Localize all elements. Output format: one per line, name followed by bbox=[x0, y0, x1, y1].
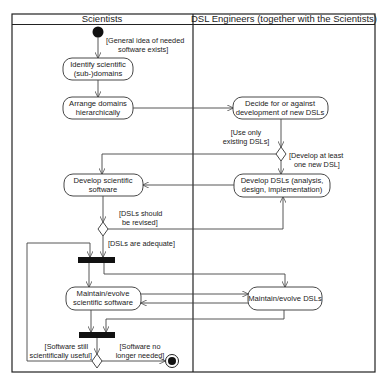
edge-use-existing bbox=[102, 154, 276, 174]
edge-maintain-dsls-join bbox=[106, 310, 284, 332]
action-identify-subdomains: Identify scientific(sub-)domains bbox=[63, 58, 133, 80]
guard-still-useful: [Software stillscientifically useful] bbox=[30, 342, 92, 360]
svg-text:Maintain/evolvescientific soft: Maintain/evolvescientific software bbox=[73, 289, 133, 307]
decision-dsl-diamond bbox=[276, 147, 286, 161]
action-maintain-dsls: Maintain/evolve DSLs bbox=[248, 287, 322, 310]
action-maintain-scientific-software: Maintain/evolvescientific software bbox=[66, 287, 141, 310]
final-node bbox=[166, 355, 179, 368]
lane-title-dsl-engineers: DSL Engineers (together with the Scienti… bbox=[191, 13, 377, 24]
guard-adequate: [DSLs are adequate] bbox=[108, 239, 175, 248]
guard-use-existing: [Use onlyexisting DSLs] bbox=[223, 128, 270, 146]
svg-text:Develop DSLs (analysis,design,: Develop DSLs (analysis,design, implement… bbox=[241, 176, 324, 194]
action-decide-dsl-development: Decide for or againstdevelopment of new … bbox=[233, 97, 328, 119]
guard-revise: [DSLs shouldbe revised] bbox=[119, 209, 162, 227]
activity-diagram: Scientists DSL Engineers (together with … bbox=[0, 0, 380, 385]
action-arrange-domains: Arrange domainshierarchically bbox=[63, 97, 133, 119]
svg-text:Decide for or againstdevelopme: Decide for or againstdevelopment of new … bbox=[236, 99, 325, 117]
action-develop-scientific-software: Develop scientificsoftware bbox=[64, 174, 143, 196]
action-develop-dsls: Develop DSLs (analysis,design, implement… bbox=[234, 174, 330, 197]
svg-text:Identify scientific(sub-)domai: Identify scientific(sub-)domains bbox=[70, 60, 126, 78]
svg-text:Maintain/evolve DSLs: Maintain/evolve DSLs bbox=[248, 294, 322, 303]
guard-general-idea: [General idea of neededsoftware exists] bbox=[106, 36, 184, 54]
initial-node bbox=[93, 27, 104, 38]
guard-no-longer-needed: [Software nolonger needed] bbox=[116, 342, 165, 360]
join-bar bbox=[79, 332, 115, 338]
guard-develop-new: [Develop at leastone new DSL] bbox=[289, 151, 343, 169]
edge-fork-maintain-dsls bbox=[104, 263, 285, 287]
decision-end-diamond bbox=[92, 354, 102, 368]
fork-bar bbox=[78, 257, 115, 263]
lane-title-scientists: Scientists bbox=[82, 13, 123, 24]
svg-text:Arrange domainshierarchically: Arrange domainshierarchically bbox=[69, 99, 127, 117]
decision-revise-diamond bbox=[98, 222, 108, 236]
